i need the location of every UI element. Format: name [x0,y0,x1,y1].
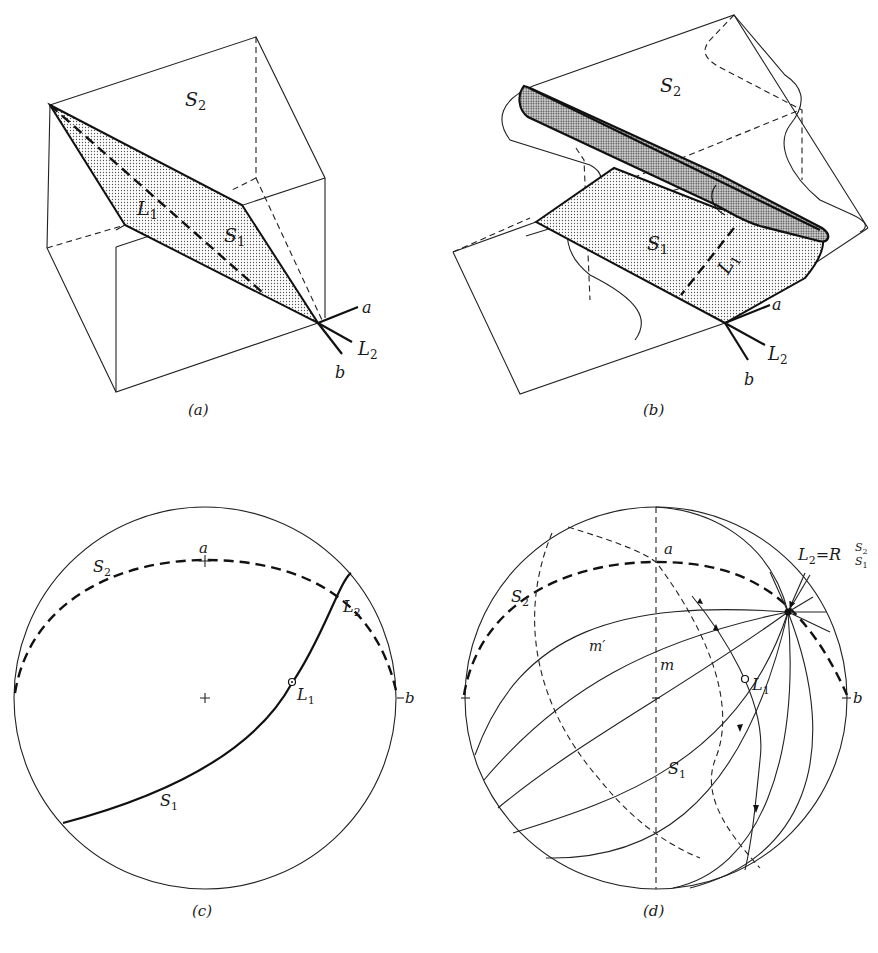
hidden-left [453,218,530,252]
gc-2 [475,610,788,755]
label-l2: L2 [357,338,378,362]
label-r-subscript: S1 [855,555,868,570]
label-b: b [853,689,863,707]
hidden-back-edge [232,178,256,190]
caption-b: (b) [643,401,664,419]
s1-surface [50,105,318,323]
axis-b [318,323,342,354]
label-l1: L1 [751,675,770,697]
caption-a: (a) [188,401,209,419]
m-dashed-arc [568,527,760,868]
label-b: b [405,689,415,707]
arrow-3 [737,724,743,732]
center-mark [200,693,210,703]
panel-b-folded-block: S2 S1 L1 a L2 b (b) [453,15,868,419]
s2-great-circle [15,560,397,695]
arrow-4 [753,805,759,813]
axis-a [318,307,358,323]
l1-point-center [291,681,293,683]
caption-c: (c) [192,902,212,920]
label-l1: L1 [296,685,315,707]
label-l2: L2 [767,343,788,367]
label-m: m [660,656,674,674]
label-b: b [744,370,754,389]
label-m-prime: m′ [589,638,606,654]
axis-l2 [318,323,352,342]
l2-pole-point [785,609,792,616]
label-s1: S1 [160,791,178,813]
gc-10 [788,575,810,612]
l1-point [742,676,749,683]
hidden-fold-right [705,15,802,180]
l2-pointer-arrow [791,573,805,605]
panel-c-stereonet: a S2 L2 L1 b S1 (c) [14,507,415,920]
label-s2: S2 [93,557,111,579]
gc-5-s1 [513,612,788,833]
gc-6 [546,612,788,858]
label-a: a [772,295,782,314]
label-b: b [335,363,345,382]
label-s2: S2 [660,74,681,99]
caption-d: (d) [643,902,664,920]
hidden-left-edge [47,225,125,248]
arrow-1 [697,598,703,604]
label-l2: L2 [342,597,361,619]
figure-canvas: S2 L1 S1 a L2 b (a) S2 S1 L1 a [0,0,878,953]
gc-3 [484,612,788,780]
panel-d-stereonet-rotation: a S2 L2=R S2 S1 m′ m L1 b S1 (d) [461,507,868,920]
label-a: a [199,539,208,557]
box-left-top-edge [453,222,536,252]
label-s2: S2 [511,587,529,609]
label-s1: S1 [668,759,686,781]
label-a: a [664,540,673,558]
label-s2: S2 [185,88,206,113]
gc-4 [498,612,788,808]
label-r-superscript: S2 [855,541,868,556]
gc-9 [770,572,788,612]
label-a: a [362,298,372,317]
m-prime-circle [535,533,700,858]
label-l2-equals-r: L2=R [797,545,841,567]
panel-a-block-diagram: S2 L1 S1 a L2 b (a) [47,37,378,419]
gc-1 [656,507,788,612]
